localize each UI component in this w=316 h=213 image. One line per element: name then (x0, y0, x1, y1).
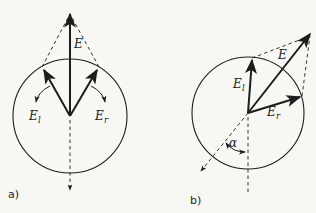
caption-b: b) (190, 194, 201, 207)
label-Er-sub-b: r (276, 111, 281, 121)
dashed-axis-tilted-b (201, 113, 248, 171)
figure-canvas: E E l E r a) E E l E (0, 0, 316, 213)
caption-a: a) (8, 188, 19, 201)
label-Er-sub-a: r (104, 115, 109, 125)
vector-Er-a (70, 70, 97, 116)
panel-b: E E l E r α b) (190, 34, 310, 207)
label-El-sub-b: l (242, 83, 245, 93)
label-alpha-b: α (229, 136, 237, 150)
label-El-base-a: E (28, 109, 38, 123)
vector-E-b (248, 34, 310, 113)
vector-diagram-svg: E E l E r a) E E l E (0, 0, 316, 213)
label-E-resultant-a: E (73, 37, 83, 51)
label-El-sub-a: l (38, 115, 41, 125)
vector-El-b (248, 60, 252, 113)
label-El-base-b: E (232, 77, 242, 91)
label-E-resultant-b: E (277, 48, 287, 62)
dashed-parallelogram-right-b (302, 36, 310, 96)
label-Er-base-a: E (94, 109, 104, 123)
panel-a: E E l E r a) (8, 14, 127, 201)
label-Er-base-b: E (266, 105, 276, 119)
vector-El-a (44, 70, 70, 116)
rotation-arc-right-a (91, 86, 105, 102)
rotation-arc-left-a (36, 86, 50, 102)
